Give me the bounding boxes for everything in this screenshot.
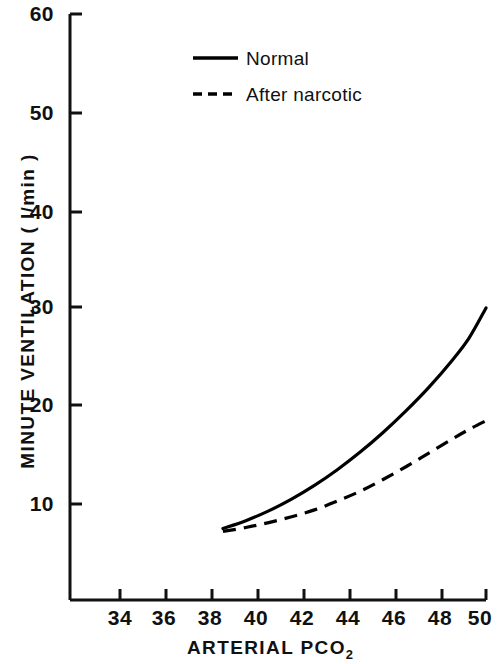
x-axis-ticks	[120, 589, 486, 600]
plot-area	[0, 0, 500, 664]
y-axis-ticks	[70, 14, 82, 504]
chart-figure: MINUTE VENTILATION ( l/min ) ARTERIAL PC…	[0, 0, 500, 664]
